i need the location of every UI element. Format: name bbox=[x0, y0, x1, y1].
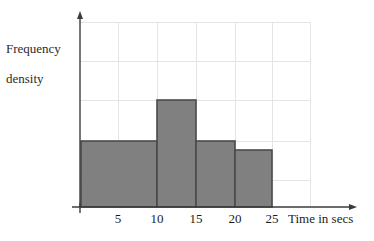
y-axis-arrowhead bbox=[77, 11, 83, 19]
x-tick-label-15: 15 bbox=[183, 211, 209, 227]
histogram-bar bbox=[81, 141, 157, 207]
x-tick-label-20: 20 bbox=[222, 211, 248, 227]
x-axis-title: Time in secs bbox=[288, 211, 353, 227]
x-tick-label-10: 10 bbox=[144, 211, 170, 227]
x-tick-label-5: 5 bbox=[105, 211, 131, 227]
y-axis-label-line-2: density bbox=[6, 71, 78, 86]
y-axis-label-line-1: Frequency bbox=[6, 41, 78, 56]
y-axis-label: Frequency density bbox=[6, 26, 78, 101]
histogram-bars bbox=[81, 100, 272, 207]
x-axis-arrowhead bbox=[349, 204, 357, 210]
histogram-figure: Frequency density 5 10 15 20 25 Time in … bbox=[0, 0, 374, 241]
histogram-bar bbox=[196, 141, 235, 207]
x-tick-label-25: 25 bbox=[259, 211, 285, 227]
histogram-bar bbox=[235, 150, 272, 207]
histogram-bar bbox=[157, 100, 196, 207]
